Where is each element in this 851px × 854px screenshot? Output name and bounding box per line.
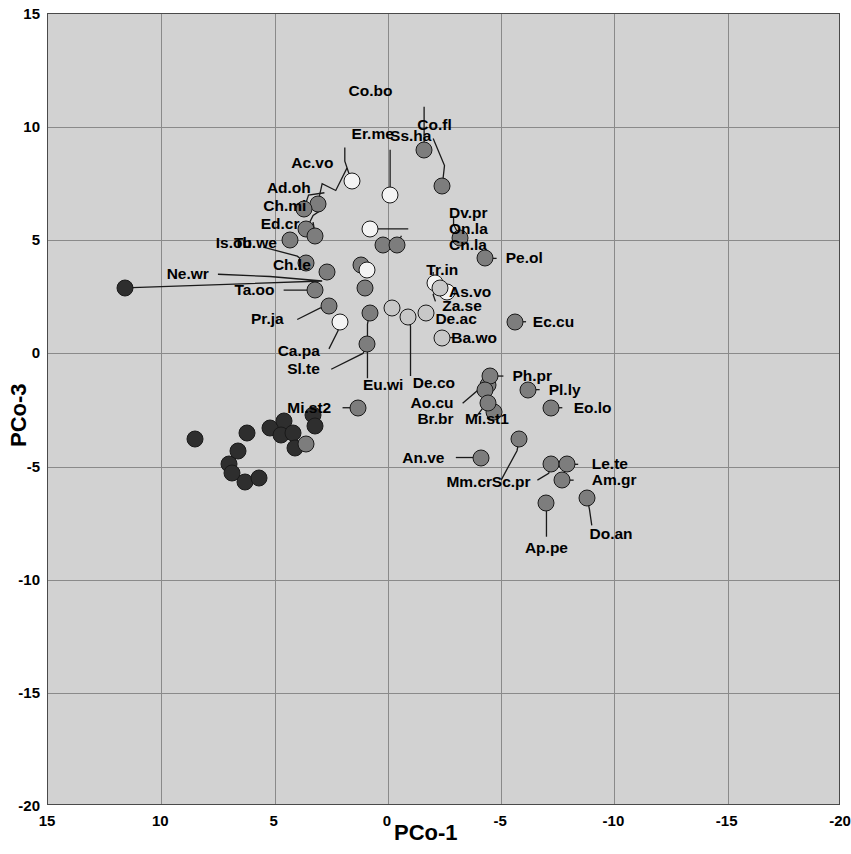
- point-label: Ba.wo: [451, 330, 497, 346]
- data-point-labelled: [554, 472, 571, 489]
- data-point-labelled: [472, 449, 489, 466]
- point-label: Mm.cr: [446, 475, 492, 491]
- point-label: Ne.wr: [167, 266, 209, 282]
- y-tick-label: 5: [0, 231, 40, 248]
- data-point-labelled: [117, 279, 134, 296]
- x-tick-label: -15: [716, 812, 738, 829]
- gridline-horizontal: [48, 693, 839, 694]
- data-point: [307, 417, 324, 434]
- gridline-horizontal: [48, 467, 839, 468]
- point-label: Pr.ja: [251, 312, 284, 328]
- point-label: Am.gr: [592, 472, 637, 488]
- point-label: Ed.cr: [261, 217, 300, 233]
- data-point-labelled: [511, 431, 528, 448]
- point-label: Ca.pa: [278, 343, 320, 359]
- point-label: Pl.ly: [549, 382, 581, 398]
- data-point: [250, 469, 267, 486]
- gridline-vertical: [614, 14, 615, 804]
- point-label: Ap.pe: [525, 540, 568, 556]
- data-point: [357, 279, 374, 296]
- point-label: On.la: [449, 221, 488, 237]
- point-label: Ad.oh: [267, 180, 311, 196]
- data-point-labelled: [361, 304, 378, 321]
- point-label: Pe.ol: [506, 251, 543, 267]
- data-point-labelled: [434, 177, 451, 194]
- data-point: [359, 261, 376, 278]
- data-point-labelled: [350, 399, 367, 416]
- gridline-vertical: [161, 14, 162, 804]
- y-tick-label: -15: [0, 683, 40, 700]
- gridline-horizontal: [48, 580, 839, 581]
- x-tick-label: -10: [603, 812, 625, 829]
- data-point-labelled: [506, 313, 523, 330]
- x-axis-label: PCo-1: [394, 820, 458, 846]
- data-point: [298, 435, 315, 452]
- data-point-labelled: [343, 173, 360, 190]
- point-label: Tu.we: [234, 235, 277, 251]
- gridline-vertical: [275, 14, 276, 804]
- point-label: Eu.wi: [363, 377, 403, 393]
- plot-area: Co.boCo.flSs.haEr.meAc.voAd.ohCh.miEd.cr…: [47, 13, 840, 805]
- data-point-labelled: [307, 282, 324, 299]
- point-label: Cn.la: [449, 237, 487, 253]
- point-label: Ch.le: [273, 257, 311, 273]
- y-tick-label: 15: [0, 5, 40, 22]
- point-label: Ch.mi: [263, 199, 306, 215]
- y-tick-label: 10: [0, 118, 40, 135]
- data-point-labelled: [479, 395, 496, 412]
- y-axis-label: PCo-3: [6, 384, 32, 448]
- point-label: Mi.st2: [287, 400, 331, 416]
- point-label: Br.br: [417, 411, 453, 427]
- point-label: Do.an: [590, 527, 633, 543]
- point-label: De.ac: [435, 312, 476, 328]
- point-label: Mi.st1: [465, 411, 509, 427]
- point-label: Ao.cu: [411, 395, 454, 411]
- point-label: Sc.pr: [492, 475, 531, 491]
- data-point-labelled: [538, 494, 555, 511]
- data-point-labelled: [307, 227, 324, 244]
- data-point-labelled: [558, 456, 575, 473]
- leader-line: [408, 317, 410, 376]
- gridline-horizontal: [48, 353, 839, 354]
- y-tick-label: -10: [0, 570, 40, 587]
- point-label: Ph.pr: [512, 368, 552, 384]
- x-tick-label: 0: [383, 812, 391, 829]
- y-tick-label: 0: [0, 344, 40, 361]
- point-label: Co.bo: [348, 83, 392, 99]
- point-label: Sl.te: [287, 362, 320, 378]
- data-point-labelled: [382, 187, 399, 204]
- x-tick-label: 5: [269, 812, 277, 829]
- data-point-labelled: [431, 279, 448, 296]
- point-label: An.ve: [402, 450, 444, 466]
- data-point-labelled: [388, 236, 405, 253]
- point-label: Ta.oo: [234, 282, 274, 298]
- point-label: Le.te: [592, 457, 628, 473]
- point-label: Tr.in: [426, 262, 458, 278]
- x-tick-label: 10: [152, 812, 169, 829]
- y-tick-label: -5: [0, 457, 40, 474]
- data-point-labelled: [359, 336, 376, 353]
- data-point-labelled: [579, 490, 596, 507]
- data-point: [239, 424, 256, 441]
- data-point-labelled: [418, 304, 435, 321]
- data-point: [187, 431, 204, 448]
- data-point-labelled: [332, 313, 349, 330]
- data-point-labelled: [542, 456, 559, 473]
- y-tick-label: -20: [0, 797, 40, 814]
- point-label: Ac.vo: [291, 156, 333, 172]
- point-label: Dv.pr: [449, 205, 487, 221]
- point-label: Ec.cu: [533, 314, 574, 330]
- x-tick-label: -20: [829, 812, 851, 829]
- data-point: [230, 442, 247, 459]
- point-label: Er.me: [352, 126, 394, 142]
- point-label: De.co: [413, 375, 455, 391]
- data-point-labelled: [282, 232, 299, 249]
- data-point-labelled: [400, 309, 417, 326]
- gridline-vertical: [728, 14, 729, 804]
- data-point-labelled: [320, 297, 337, 314]
- x-tick-label: -5: [493, 812, 506, 829]
- x-tick-label: 15: [39, 812, 56, 829]
- leader-line: [125, 274, 322, 288]
- gridline-horizontal: [48, 240, 839, 241]
